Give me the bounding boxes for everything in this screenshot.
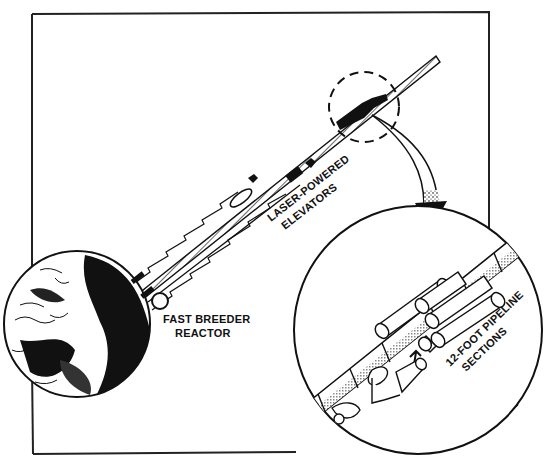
arrow-up-icon — [248, 174, 258, 183]
space-elevator-diagram: LASER-POWERED ELEVATORS — [0, 0, 552, 466]
earth-globe — [4, 251, 154, 398]
reactor-label-1: FAST BREEDER — [163, 313, 250, 325]
reactor-icon — [152, 293, 168, 309]
reactor-label-2: REACTOR — [175, 327, 231, 339]
inset-detail: 12-FOOT PIPELINE SECTIONS — [294, 206, 542, 454]
